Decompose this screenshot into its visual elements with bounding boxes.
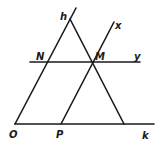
label-P: P [56,129,64,140]
line-x [61,22,114,124]
label-O: O [9,129,18,140]
label-x: x [114,20,122,31]
ray-h [15,8,76,124]
geometry-diagram: h x N M y O P k [0,0,157,151]
label-k: k [142,130,150,141]
transversal-line [70,19,124,124]
label-N: N [36,51,45,62]
label-h: h [60,11,67,22]
label-M: M [95,51,105,62]
label-y: y [134,51,141,62]
